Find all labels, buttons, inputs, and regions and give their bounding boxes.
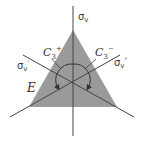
sigma-v-double-prime-label: σv" [114,56,128,70]
c3v-symmetry-diagram: σv σv' σv" C3+ C3− E [0,0,148,144]
c3-minus-label: C3− [95,45,114,61]
sigma-v-prime-label: σv' [17,59,30,73]
identity-label: E [26,81,36,95]
sigma-v-label: σv [78,11,89,24]
